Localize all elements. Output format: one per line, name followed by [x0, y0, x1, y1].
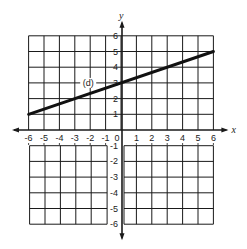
x-axis-right-arrow-icon — [221, 128, 228, 133]
y-tick-label: 4 — [113, 62, 118, 72]
x-tick-label: -1 — [102, 133, 110, 143]
grid-lower-left — [30, 146, 108, 225]
y-axis-label: y — [118, 10, 124, 21]
x-tick-label: 5 — [195, 133, 200, 143]
x-tick-label: 3 — [165, 133, 170, 143]
y-tick-label: -2 — [110, 156, 118, 166]
x-tick-label: -6 — [25, 133, 33, 143]
y-axis-up-arrow-icon — [120, 21, 125, 28]
x-tick-label: -4 — [55, 133, 63, 143]
x-tick-label: 6 — [211, 133, 216, 143]
x-tick-label: 2 — [149, 133, 154, 143]
y-axis-down-arrow-icon — [120, 233, 125, 240]
x-axis-left-arrow-icon — [12, 128, 19, 133]
x-tick-label: 1 — [134, 133, 139, 143]
coordinate-plane: -6-5-4-3-2-10123456-6-5-4-3-2-1123456 (d… — [0, 0, 247, 249]
y-tick-label: 6 — [113, 31, 118, 41]
x-tick-label: -3 — [71, 133, 79, 143]
line-label-d: (d) — [83, 78, 94, 88]
y-tick-label: 1 — [113, 109, 118, 119]
y-tick-label: -4 — [110, 188, 118, 198]
y-tick-label: -5 — [110, 204, 118, 214]
x-tick-label: -5 — [40, 133, 48, 143]
y-tick-label: -6 — [110, 219, 118, 229]
y-tick-label: -1 — [110, 141, 118, 151]
y-tick-label: 5 — [113, 47, 118, 57]
grid-lower-right — [124, 146, 213, 225]
y-tick-label: -3 — [110, 172, 118, 182]
y-tick-label: 2 — [113, 94, 118, 104]
x-tick-label: 4 — [180, 133, 185, 143]
x-axis-label: x — [230, 124, 236, 135]
x-tick-label: -2 — [86, 133, 94, 143]
